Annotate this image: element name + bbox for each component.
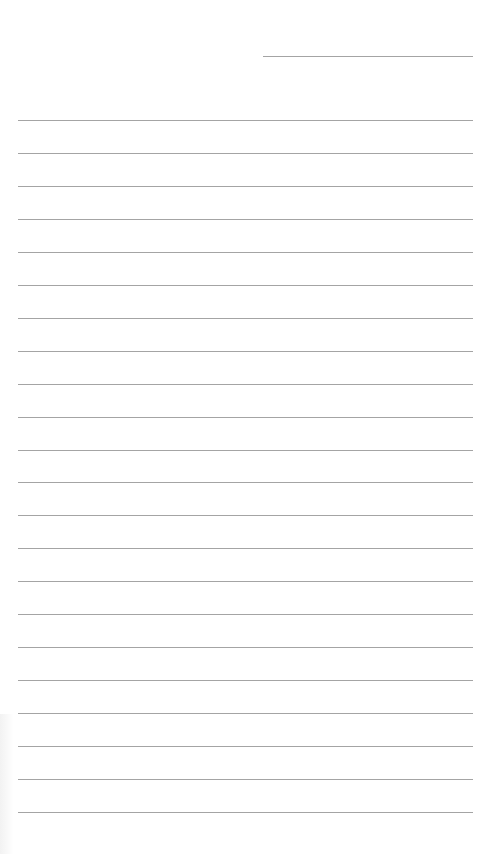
writing-line bbox=[18, 614, 473, 615]
writing-line bbox=[18, 186, 473, 187]
writing-lines bbox=[0, 0, 496, 854]
writing-line bbox=[18, 285, 473, 286]
writing-line bbox=[18, 713, 473, 714]
writing-line bbox=[18, 219, 473, 220]
writing-line bbox=[18, 548, 473, 549]
writing-line bbox=[18, 120, 473, 121]
writing-line bbox=[18, 812, 473, 813]
writing-line bbox=[18, 417, 473, 418]
writing-line bbox=[18, 318, 473, 319]
writing-line bbox=[18, 252, 473, 253]
writing-line bbox=[18, 384, 473, 385]
writing-line bbox=[18, 515, 473, 516]
writing-line bbox=[18, 153, 473, 154]
writing-line bbox=[18, 647, 473, 648]
writing-line bbox=[18, 482, 473, 483]
writing-line bbox=[18, 680, 473, 681]
writing-line bbox=[18, 779, 473, 780]
writing-line bbox=[18, 450, 473, 451]
writing-line bbox=[18, 351, 473, 352]
lined-notepad-page bbox=[0, 0, 496, 854]
writing-line bbox=[18, 581, 473, 582]
writing-line bbox=[18, 746, 473, 747]
